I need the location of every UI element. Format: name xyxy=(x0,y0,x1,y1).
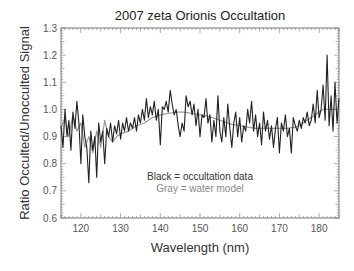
y-tick-label: 0.8 xyxy=(43,158,57,169)
legend-gray-entry: Gray = water model xyxy=(156,183,244,194)
x-tick-label: 140 xyxy=(152,223,169,234)
y-tick-label: 0.9 xyxy=(43,131,57,142)
chart-title: 2007 zeta Orionis Occultation xyxy=(115,8,286,23)
x-tick-label: 120 xyxy=(73,223,90,234)
chart: 2007 zeta Orionis Occultation 1201301401… xyxy=(0,0,354,271)
x-tick-label: 130 xyxy=(112,223,129,234)
x-tick-label: 170 xyxy=(271,223,288,234)
y-tick-label: 0.7 xyxy=(43,185,57,196)
y-axis-label: Ratio Occulted/Unocculted Signal xyxy=(17,26,32,220)
y-tick-label: 1.3 xyxy=(43,23,57,34)
x-tick-label: 160 xyxy=(231,223,248,234)
x-tick-label: 150 xyxy=(192,223,209,234)
x-axis-label: Wavelength (nm) xyxy=(151,240,250,255)
y-tick-label: 1.2 xyxy=(43,50,57,61)
y-tick-label: 0.6 xyxy=(43,213,57,224)
legend-black-entry: Black = occultation data xyxy=(147,171,253,182)
occultation-data-line xyxy=(61,55,339,183)
y-tick-label: 1.0 xyxy=(43,104,57,115)
x-tick-label: 180 xyxy=(311,223,328,234)
y-tick-label: 1.1 xyxy=(43,77,57,88)
plot-area: 1201301401501601701800.60.70.80.91.01.11… xyxy=(43,23,339,235)
